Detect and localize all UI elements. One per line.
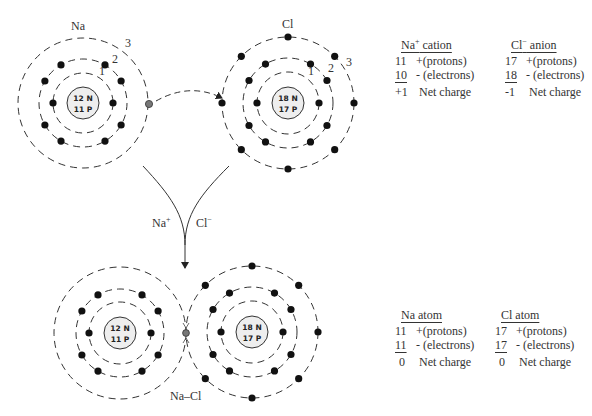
- bottom-cl-atom: 18 N17 P: [186, 262, 322, 401]
- table-row: 17 - (electrons): [495, 338, 574, 352]
- bottom-na-atom: 12 N11 P: [54, 267, 186, 399]
- electron: [248, 394, 255, 401]
- top-cl-shell-1-label: 1: [308, 64, 314, 79]
- top-na-shell-2-label: 2: [112, 52, 118, 67]
- nucleus: [104, 317, 136, 349]
- electron: [248, 262, 255, 269]
- electron: [245, 122, 252, 129]
- electron: [138, 368, 145, 375]
- electron: [271, 289, 278, 296]
- electron: [41, 121, 48, 128]
- electron: [57, 138, 64, 145]
- table-row: 17 +(protons): [505, 54, 584, 68]
- electron: [94, 291, 101, 298]
- electron-transfer-arrow: [156, 91, 222, 101]
- na-cation-title: Na+ cation: [401, 38, 452, 52]
- table-row: -1 Net charge: [505, 85, 584, 99]
- top-cl-atom: 18 N17 P: [218, 33, 357, 172]
- electron: [262, 60, 269, 67]
- electron: [109, 99, 116, 106]
- electron: [202, 282, 209, 289]
- electron: [138, 291, 145, 298]
- na-ion-charge: +: [166, 215, 171, 224]
- electron: [78, 351, 85, 358]
- table-row: +1 Net charge: [395, 85, 474, 99]
- nucleus: [67, 87, 99, 119]
- table-row: 0 Net charge: [395, 355, 474, 369]
- shared-electron: [183, 330, 190, 337]
- cl-anion-table: Cl− anion 17 +(protons) 18 - (electrons)…: [505, 38, 584, 99]
- neutron-count: 12 N: [110, 324, 129, 333]
- cl-anion-title: Cl− anion: [511, 38, 557, 52]
- na-ion-label: Na+: [152, 216, 171, 231]
- table-row: 17 +(protons): [495, 324, 574, 338]
- nucleus: [236, 316, 268, 348]
- cl-atom-table: Cl atom 17 +(protons) 17 - (electrons) 0…: [495, 308, 574, 369]
- electron: [85, 329, 92, 336]
- electron: [226, 367, 233, 374]
- nucleus: [272, 87, 304, 119]
- electron: [238, 146, 245, 153]
- transfer-electron: [145, 100, 152, 107]
- electron: [155, 307, 162, 314]
- cl-ion-path: [185, 166, 229, 245]
- table-row: 0 Net charge: [495, 355, 574, 369]
- electron: [118, 77, 125, 84]
- proton-count: 11 P: [111, 335, 130, 344]
- na-atom-table: Na atom 11 +(protons) 11 - (electrons) 0…: [395, 308, 474, 369]
- electron: [295, 282, 302, 289]
- proton-count: 11 P: [74, 105, 93, 114]
- proton-count: 17 P: [279, 105, 298, 114]
- electron: [202, 375, 209, 382]
- top-na-shell-1-label: 1: [99, 64, 105, 79]
- cl-ion-text: Cl: [196, 216, 207, 230]
- electron: [284, 33, 291, 40]
- top-na-label: Na: [71, 19, 85, 34]
- top-na-atom: 12 N11 P: [18, 38, 148, 168]
- neutron-count: 12 N: [73, 94, 92, 103]
- electron: [147, 329, 154, 336]
- top-cl-shell-3-label: 3: [346, 55, 352, 70]
- electron: [331, 53, 338, 60]
- electron: [284, 165, 291, 172]
- electron: [155, 351, 162, 358]
- electron: [238, 53, 245, 60]
- electron: [245, 77, 252, 84]
- electron: [41, 77, 48, 84]
- top-cl-label: Cl: [282, 17, 293, 32]
- table-row: 10 - (electrons): [395, 68, 474, 82]
- na-ion-text: Na: [152, 216, 166, 230]
- proton-count: 17 P: [243, 334, 262, 343]
- electron: [307, 138, 314, 145]
- electron: [209, 351, 216, 358]
- na-ion-path: [143, 166, 185, 245]
- neutron-count: 18 N: [278, 94, 297, 103]
- na-atom-title: Na atom: [401, 308, 442, 322]
- electron: [323, 122, 330, 129]
- na-cation-table: Na+ cation 11 +(protons) 10 - (electrons…: [395, 38, 474, 99]
- electron: [78, 307, 85, 314]
- electron: [350, 99, 357, 106]
- electron: [323, 77, 330, 84]
- electron: [314, 328, 321, 335]
- electron: [262, 138, 269, 145]
- electron: [287, 351, 294, 358]
- table-row: 11 - (electrons): [395, 338, 474, 352]
- electron: [101, 138, 108, 145]
- top-cl-shell-2-label: 2: [328, 61, 334, 76]
- cl-ion-label: Cl−: [196, 216, 212, 231]
- electron: [118, 121, 125, 128]
- cl-ion-charge: −: [207, 215, 212, 224]
- cl-atom-title: Cl atom: [501, 308, 539, 322]
- electron: [331, 146, 338, 153]
- electron: [226, 289, 233, 296]
- electron: [287, 306, 294, 313]
- electron: [209, 306, 216, 313]
- table-row: 11 +(protons): [395, 324, 474, 338]
- electron: [271, 367, 278, 374]
- electron: [49, 99, 56, 106]
- bond-label: Na–Cl: [170, 389, 201, 404]
- electron: [315, 99, 322, 106]
- table-row: 11 +(protons): [395, 54, 474, 68]
- electron: [218, 99, 225, 106]
